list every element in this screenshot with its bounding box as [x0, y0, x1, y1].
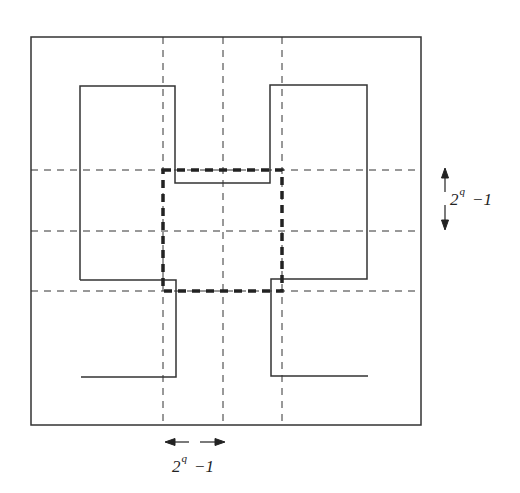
horizontal-dimension-arrow: [165, 439, 225, 446]
diagram-canvas: [0, 0, 520, 493]
label-base: 2: [450, 190, 459, 209]
label-base: 2: [172, 457, 181, 476]
vertical-dimension-arrow: [442, 168, 449, 230]
vertical-span-label: 2q−1: [450, 188, 492, 210]
label-exponent: q: [182, 452, 188, 464]
horizontal-span-label: 2q−1: [172, 455, 214, 477]
horizontal-grid-lines: [31, 170, 421, 291]
label-exponent: q: [460, 185, 466, 197]
label-suffix: −1: [472, 190, 492, 209]
label-suffix: −1: [194, 457, 214, 476]
